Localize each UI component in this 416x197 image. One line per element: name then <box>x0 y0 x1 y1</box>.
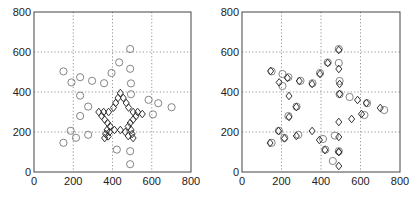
circle-marker <box>127 148 134 155</box>
y-tick-label: 0 <box>233 166 239 178</box>
x-tick-label: 400 <box>103 175 121 187</box>
circle-marker <box>85 131 92 138</box>
circle-marker <box>77 112 84 119</box>
x-tick-label: 800 <box>182 175 200 187</box>
circle-marker <box>346 93 353 100</box>
circle-marker <box>319 135 326 142</box>
circle-marker <box>127 91 134 98</box>
diamond-marker <box>286 92 292 100</box>
circle-marker <box>88 77 95 84</box>
diamond-marker <box>126 104 132 112</box>
x-tick-label: 800 <box>391 175 409 187</box>
x-tick-label: 0 <box>239 175 245 187</box>
circle-marker <box>100 80 107 87</box>
circle-marker <box>72 134 79 141</box>
circle-marker <box>68 79 75 86</box>
figure: 0200400600800020040060080002004006008000… <box>0 0 416 197</box>
x-tick-label: 200 <box>272 175 290 187</box>
circle-marker <box>149 111 156 118</box>
y-tick-label: 400 <box>221 86 239 98</box>
circle-marker <box>168 104 175 111</box>
circle-marker <box>329 157 336 164</box>
circle-marker <box>67 127 74 134</box>
circle-marker <box>60 139 67 146</box>
circle-marker <box>108 69 115 76</box>
y-tick-label: 600 <box>221 46 239 58</box>
diamond-marker <box>309 127 315 135</box>
y-tick-label: 800 <box>13 6 31 18</box>
x-tick-label: 200 <box>64 175 82 187</box>
diamond-marker <box>113 99 119 107</box>
diamond-marker <box>130 108 136 116</box>
circle-marker <box>85 103 92 110</box>
circle-marker <box>127 65 134 72</box>
diamond-marker <box>336 133 342 141</box>
circle-marker <box>77 74 84 81</box>
circle-marker <box>279 82 286 89</box>
y-tick-label: 0 <box>25 166 31 178</box>
circle-marker <box>127 80 134 87</box>
diamond-marker <box>336 162 342 170</box>
circle-marker <box>127 45 134 52</box>
circle-marker <box>77 92 84 99</box>
scatter-plot-1: 02004006008000200400600800 <box>13 6 201 187</box>
diamond-marker <box>349 115 355 123</box>
y-tick-label: 400 <box>13 86 31 98</box>
x-tick-label: 400 <box>312 175 330 187</box>
circle-marker <box>155 100 162 107</box>
circle-marker <box>116 59 123 66</box>
x-tick-label: 600 <box>143 175 161 187</box>
diamond-marker <box>336 118 342 126</box>
scatter-plot-2: 02004006008000200400600800 <box>221 6 410 187</box>
circle-marker <box>127 161 134 168</box>
y-tick-label: 600 <box>13 46 31 58</box>
y-tick-label: 800 <box>221 6 239 18</box>
circle-marker <box>113 146 120 153</box>
x-tick-label: 0 <box>31 175 37 187</box>
x-tick-label: 600 <box>351 175 369 187</box>
circle-marker <box>60 68 67 75</box>
y-tick-label: 200 <box>221 126 239 138</box>
diamond-marker <box>354 96 360 104</box>
circle-marker <box>145 96 152 103</box>
diamond-marker <box>110 104 116 112</box>
y-tick-label: 200 <box>13 126 31 138</box>
